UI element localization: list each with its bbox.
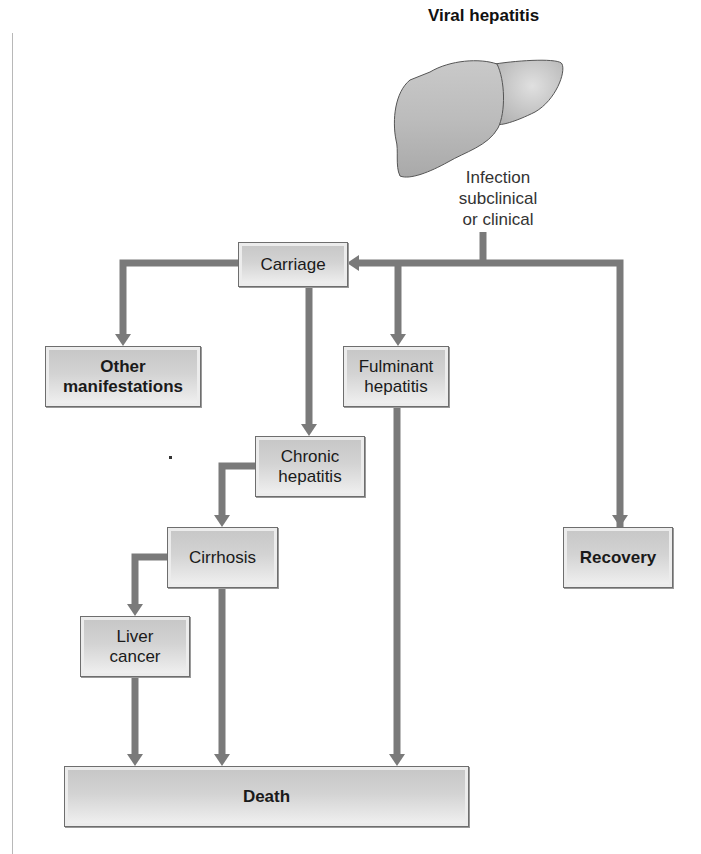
- stray-dot: [169, 456, 172, 459]
- node-recovery: Recovery: [563, 527, 673, 588]
- node-other-manifestations: Other manifestations: [45, 346, 201, 407]
- infection-line-1: Infection: [440, 167, 556, 188]
- node-death: Death: [64, 766, 469, 827]
- node-liver-cancer: Liver cancer: [80, 616, 190, 677]
- node-fulminant-hepatitis: Fulminant hepatitis: [343, 346, 449, 407]
- liver-icon: [394, 60, 562, 177]
- flow-arrows: [0, 0, 701, 854]
- node-carriage: Carriage: [238, 242, 348, 287]
- node-chronic-hepatitis: Chronic hepatitis: [255, 436, 365, 497]
- node-cirrhosis: Cirrhosis: [167, 527, 278, 588]
- infection-line-3: or clinical: [440, 209, 556, 230]
- infection-label: Infection subclinical or clinical: [440, 167, 556, 230]
- infection-line-2: subclinical: [440, 188, 556, 209]
